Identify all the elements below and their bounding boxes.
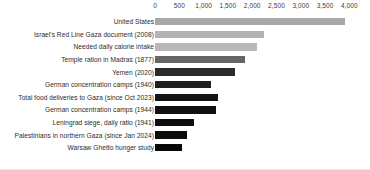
bar[interactable] bbox=[155, 31, 264, 38]
bar[interactable] bbox=[155, 56, 245, 63]
bar-track bbox=[155, 68, 235, 75]
bar-row: Total food deliveries to Gaza (since Oct… bbox=[0, 92, 370, 104]
bar-category-label: Palestinians in northern Gaza (since Jan… bbox=[0, 132, 154, 139]
bar-category-label: German concentration camps (1940) bbox=[0, 81, 154, 88]
bar-row: Israel's Red Line Gaza document (2008) bbox=[0, 29, 370, 41]
bar-category-label: Total food deliveries to Gaza (since Oct… bbox=[0, 94, 154, 101]
plot-area: United StatesIsrael's Red Line Gaza docu… bbox=[0, 16, 370, 166]
bar-track bbox=[155, 43, 257, 50]
bar-track bbox=[155, 18, 345, 25]
bar-track bbox=[155, 144, 182, 151]
bar-row: Palestinians in northern Gaza (since Jan… bbox=[0, 129, 370, 141]
bar-category-label: Warsaw Ghetto hunger study bbox=[0, 144, 154, 151]
bar[interactable] bbox=[155, 131, 187, 138]
bar-row: United States bbox=[0, 16, 370, 28]
bar-track bbox=[155, 94, 218, 101]
bar-track bbox=[155, 56, 245, 63]
bar-category-label: Leningrad siege, daily ratio (1941) bbox=[0, 119, 154, 126]
bar-row: Leningrad siege, daily ratio (1941) bbox=[0, 117, 370, 129]
x-axis: 05001,0001,5002,0002,5003,0003,5004,000 bbox=[0, 2, 370, 14]
bar-track bbox=[155, 81, 211, 88]
x-axis-tick-label: 0 bbox=[153, 2, 157, 9]
bar-track bbox=[155, 119, 194, 126]
bar-row: Needed daily calorie intake bbox=[0, 41, 370, 53]
x-axis-tick-label: 3,000 bbox=[292, 2, 309, 9]
bar-track bbox=[155, 131, 187, 138]
bar[interactable] bbox=[155, 94, 218, 101]
x-axis-tick-label: 1,000 bbox=[195, 2, 212, 9]
bar-track bbox=[155, 31, 264, 38]
bar-category-label: Yemen (2020) bbox=[0, 69, 154, 76]
bar[interactable] bbox=[155, 106, 216, 113]
bar-row: German concentration camps (1940) bbox=[0, 79, 370, 91]
x-axis-tick-label: 2,000 bbox=[244, 2, 261, 9]
bar-category-label: Israel's Red Line Gaza document (2008) bbox=[0, 31, 154, 38]
bar-category-label: Temple ration in Madras (1877) bbox=[0, 56, 154, 63]
bar-chart: 05001,0001,5002,0002,5003,0003,5004,000 … bbox=[0, 0, 370, 170]
bar[interactable] bbox=[155, 119, 194, 126]
bar[interactable] bbox=[155, 144, 182, 151]
x-axis-tick-label: 2,500 bbox=[268, 2, 285, 9]
bar-row: Temple ration in Madras (1877) bbox=[0, 54, 370, 66]
bar-track bbox=[155, 106, 216, 113]
x-axis-tick-label: 1,500 bbox=[220, 2, 237, 9]
bar-row: German concentration camps (1944) bbox=[0, 104, 370, 116]
bar-row: Warsaw Ghetto hunger study bbox=[0, 142, 370, 154]
bar[interactable] bbox=[155, 18, 345, 25]
bar-category-label: United States bbox=[0, 18, 154, 25]
bar[interactable] bbox=[155, 68, 235, 75]
x-axis-tick-label: 3,500 bbox=[317, 2, 334, 9]
bar-row: Yemen (2020) bbox=[0, 66, 370, 78]
x-axis-tick-label: 4,000 bbox=[341, 2, 358, 9]
bar[interactable] bbox=[155, 43, 257, 50]
x-axis-tick-label: 500 bbox=[174, 2, 185, 9]
bar-category-label: German concentration camps (1944) bbox=[0, 106, 154, 113]
bar-category-label: Needed daily calorie intake bbox=[0, 43, 154, 50]
bar[interactable] bbox=[155, 81, 211, 88]
